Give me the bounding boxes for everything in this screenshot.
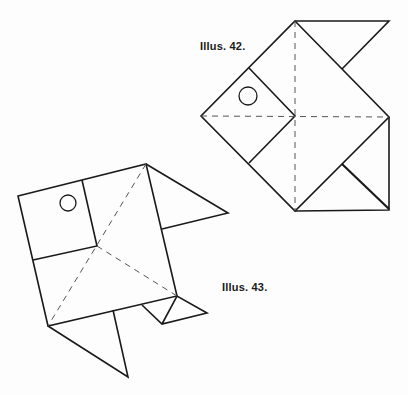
bird-fold-lines: [48, 164, 177, 326]
bird-foot: [142, 296, 207, 324]
diagram-canvas: Illus. 42. Illus. 43.: [0, 0, 408, 395]
fish-eye: [239, 87, 257, 105]
caption-illus-42: Illus. 42.: [200, 40, 245, 52]
fish-tail-fold: [342, 164, 389, 209]
bird-head-panel: [33, 180, 97, 260]
fish-head-panel: [249, 68, 295, 163]
bird-figure: [18, 164, 228, 377]
fish-tail-top: [295, 21, 389, 69]
bird-eye: [60, 195, 76, 211]
bird-tail: [48, 310, 128, 377]
caption-illus-43: Illus. 43.: [222, 281, 267, 293]
origami-diagrams: [0, 0, 408, 395]
